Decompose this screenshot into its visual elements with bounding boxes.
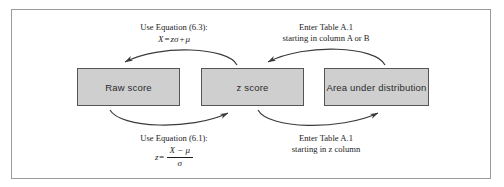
diagram-page: Raw score z score Area under distributio… [0, 0, 504, 187]
label-bottom-right: Enter Table A.1 starting in z column [252, 133, 400, 156]
arrow-raw-to-z [110, 110, 228, 125]
node-raw-score[interactable]: Raw score [77, 68, 180, 106]
equation-6-1-denominator: σ [167, 158, 194, 170]
arrow-z-to-raw [125, 50, 237, 65]
node-z-score[interactable]: z score [201, 68, 304, 106]
label-top-left: Use Equation (6.3): X=zσ+μ [108, 22, 240, 46]
equation-6-3-term2: μ [186, 34, 191, 44]
equation-6-1-operator: = [158, 152, 164, 164]
label-bottom-right-line2: starting in z column [252, 144, 400, 155]
arrow-z-to-area [258, 110, 378, 125]
equation-6-1-fraction: X − μ σ [167, 145, 194, 169]
node-area-under-distribution-label: Area under distribution [326, 82, 426, 93]
equation-6-1-numerator: X − μ [167, 145, 194, 157]
equation-6-3-plus: + [178, 34, 185, 44]
label-bottom-left: Use Equation (6.1): z= X − μ σ [108, 133, 240, 170]
node-area-under-distribution[interactable]: Area under distribution [324, 68, 429, 106]
equation-6-3-operator: = [163, 34, 170, 44]
arrow-area-to-z [268, 49, 385, 65]
node-raw-score-label: Raw score [105, 82, 152, 93]
label-bottom-left-line1: Use Equation (6.1): [108, 133, 240, 144]
label-top-right: Enter Table A.1 starting in column A or … [252, 22, 400, 45]
equation-6-3: X=zσ+μ [108, 34, 240, 46]
label-top-left-line1: Use Equation (6.3): [108, 22, 240, 33]
node-z-score-label: z score [236, 82, 268, 93]
label-top-right-line2: starting in column A or B [252, 33, 400, 44]
label-top-right-line1: Enter Table A.1 [252, 22, 400, 33]
label-bottom-right-line1: Enter Table A.1 [252, 133, 400, 144]
equation-6-1: z= X − μ σ [108, 146, 240, 170]
